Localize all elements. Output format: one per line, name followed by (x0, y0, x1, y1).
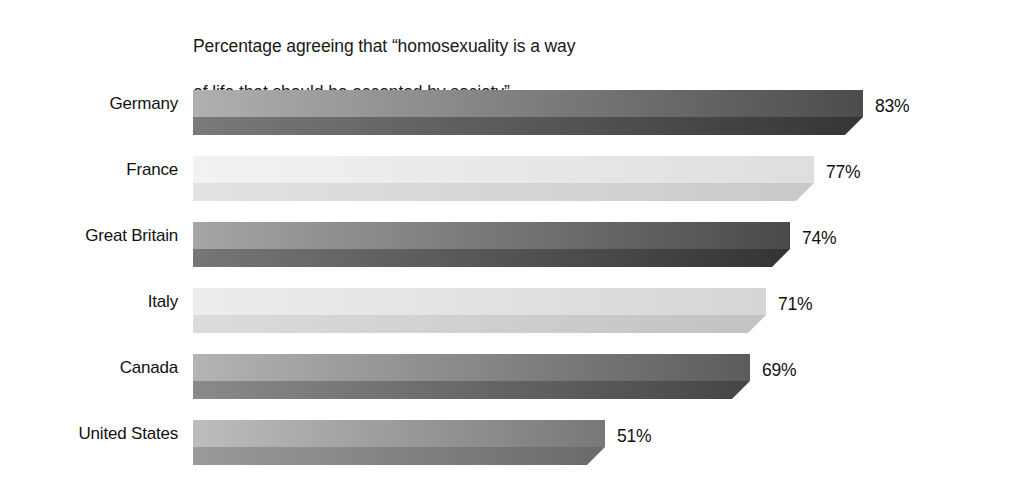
bar-germany (193, 90, 865, 136)
bar-depth-face (193, 117, 863, 135)
bar-value-label: 71% (778, 294, 812, 314)
bar-category-label: Germany (0, 94, 178, 114)
bar-shape (193, 420, 607, 466)
bar-depth-face (193, 381, 750, 399)
bar-value-label: 83% (875, 96, 909, 116)
bar-shape (193, 222, 792, 268)
bar-depth-face (193, 315, 766, 333)
bar-front-face (193, 420, 605, 447)
bar-front-face (193, 90, 863, 117)
bar-front-face (193, 222, 790, 249)
bar-category-label: France (0, 160, 178, 180)
bar-value-label: 69% (762, 360, 796, 380)
bar-france (193, 156, 816, 202)
bar-depth-face (193, 249, 790, 267)
bar-depth-face (193, 447, 605, 465)
bar-shape (193, 354, 752, 400)
bar-category-label: Italy (0, 292, 178, 312)
bar-united-states (193, 420, 607, 466)
bar-value-label: 74% (802, 228, 836, 248)
bar-italy (193, 288, 768, 334)
bar-value-label: 51% (617, 426, 651, 446)
bar-shape (193, 156, 816, 202)
bar-great-britain (193, 222, 792, 268)
bar-category-label: Canada (0, 358, 178, 378)
bar-front-face (193, 354, 750, 381)
bar-canada (193, 354, 752, 400)
bar-shape (193, 288, 768, 334)
bar-shape (193, 90, 865, 136)
bar-value-label: 77% (826, 162, 860, 182)
bar-category-label: Great Britain (0, 226, 178, 246)
bar-chart: Percentage agreeing that “homosexuality … (0, 0, 1011, 487)
plot-area: Germany83%France77%Great Britain74%Italy… (0, 0, 1011, 487)
bar-front-face (193, 156, 814, 183)
bar-depth-face (193, 183, 814, 201)
bar-category-label: United States (0, 424, 178, 444)
bar-front-face (193, 288, 766, 315)
